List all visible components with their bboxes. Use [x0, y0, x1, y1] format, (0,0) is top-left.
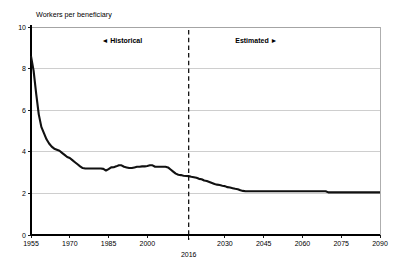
y-tick-label-10: 10	[18, 24, 26, 31]
y-axis-ticks: 0246810	[18, 24, 31, 239]
y-tick-label-4: 4	[22, 148, 26, 155]
y-tick-label-0: 0	[22, 232, 26, 239]
data-series-group	[31, 56, 380, 192]
x-tick-label-1955: 1955	[23, 240, 39, 247]
annotation-text-1: ◄ Historical	[101, 37, 142, 44]
x-tick-label-2000: 2000	[140, 240, 156, 247]
annotations-group: 2016◄ HistoricalEstimated ►	[101, 30, 277, 258]
y-tick-label-6: 6	[22, 107, 26, 114]
x-axis-ticks: 195519701985200020302045206020752090	[23, 235, 388, 247]
y-axis-title: Workers per beneficiary	[36, 10, 112, 19]
x-tick-label-2030: 2030	[217, 240, 233, 247]
chart-canvas: 0246810 19551970198520002030204520602075…	[0, 0, 403, 268]
x-tick-label-2090: 2090	[372, 240, 388, 247]
annotation-text-2: Estimated ►	[235, 37, 277, 44]
plot-frame	[31, 25, 380, 235]
x-tick-label-1970: 1970	[62, 240, 78, 247]
x-tick-label-1985: 1985	[101, 240, 117, 247]
y-tick-label-2: 2	[22, 190, 26, 197]
divider-label-2016: 2016	[181, 251, 197, 258]
x-tick-label-2060: 2060	[295, 240, 311, 247]
x-tick-label-2045: 2045	[256, 240, 272, 247]
workers-per-beneficiary-chart: 0246810 19551970198520002030204520602075…	[0, 0, 403, 268]
series-line-0	[31, 56, 380, 192]
x-tick-label-2075: 2075	[333, 240, 349, 247]
y-tick-label-8: 8	[22, 65, 26, 72]
